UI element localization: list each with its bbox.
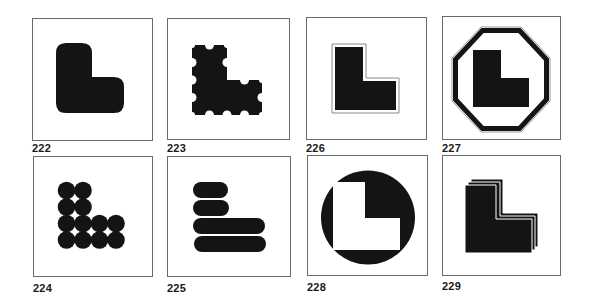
figure-label: 222 <box>32 143 51 154</box>
stacked-pills-l-shape-icon <box>193 182 266 252</box>
figure-label: 224 <box>33 283 52 294</box>
figure-label: 228 <box>307 282 326 293</box>
figure-label: 225 <box>167 283 186 294</box>
outlined-l-shape-icon <box>332 44 399 113</box>
octagon-l-shape-icon <box>452 27 550 132</box>
figure-label: 223 <box>167 143 186 154</box>
scalloped-l-shape-icon <box>192 45 262 115</box>
figure-label: 227 <box>442 143 461 154</box>
rounded-l-shape-icon <box>56 43 124 113</box>
figure-label: 226 <box>306 143 325 154</box>
circle-grid-l-shape-icon <box>58 182 125 249</box>
figure-label: 229 <box>442 281 461 292</box>
circle-knockout-l-shape-icon <box>321 171 415 265</box>
layered-l-shape-icon <box>465 179 538 253</box>
